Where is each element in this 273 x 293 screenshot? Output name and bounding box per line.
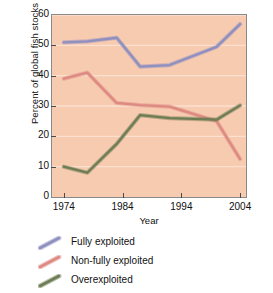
chart-legend: Fully exploitedNon-fully exploitedOverex… — [38, 234, 258, 291]
y-tick-label: 0 — [27, 190, 49, 201]
y-tick-label: 60 — [27, 8, 49, 19]
chart-figure: Percent of global fish stocks 0102030405… — [0, 0, 273, 293]
y-tick-mark — [51, 167, 56, 168]
y-tick-label: 20 — [27, 129, 49, 140]
legend-label: Non-fully exploited — [71, 255, 153, 266]
legend-swatch-icon — [38, 255, 62, 269]
x-axis-label: Year — [51, 215, 247, 226]
y-tick-label: 10 — [27, 160, 49, 171]
legend-swatch-icon — [38, 274, 62, 288]
y-tick-label: 40 — [27, 69, 49, 80]
chart-canvas — [52, 15, 246, 197]
x-tick-mark — [240, 193, 241, 198]
legend-item: Overexploited — [38, 272, 258, 291]
x-tick-label: 1994 — [164, 201, 198, 212]
x-tick-label: 1974 — [47, 201, 81, 212]
x-tick-label: 1984 — [106, 201, 140, 212]
y-tick-label: 30 — [27, 99, 49, 110]
legend-swatch-icon — [38, 236, 62, 250]
y-tick-label: 50 — [27, 38, 49, 49]
series-line — [64, 105, 240, 172]
x-tick-mark — [123, 193, 124, 198]
x-tick-mark — [181, 193, 182, 198]
legend-item: Fully exploited — [38, 234, 258, 253]
legend-label: Overexploited — [71, 274, 133, 285]
plot-area — [51, 14, 247, 198]
y-tick-mark — [51, 136, 56, 137]
x-tick-mark — [64, 193, 65, 198]
y-tick-mark — [51, 76, 56, 77]
legend-label: Fully exploited — [71, 236, 135, 247]
legend-item: Non-fully exploited — [38, 253, 258, 272]
x-tick-label: 2004 — [223, 201, 257, 212]
y-tick-mark — [51, 45, 56, 46]
y-tick-mark — [51, 106, 56, 107]
